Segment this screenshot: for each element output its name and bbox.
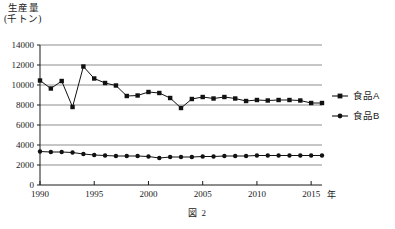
data-point-marker [125, 94, 129, 98]
data-point-marker [59, 150, 63, 154]
data-point-marker [287, 153, 291, 157]
data-point-marker [233, 96, 237, 100]
data-point-marker [244, 99, 248, 103]
data-point-marker [146, 154, 150, 158]
data-point-marker [190, 97, 194, 101]
data-point-marker [81, 152, 85, 156]
legend-label-食品B: 食品B [353, 110, 379, 121]
y-tick-label: 8000 [16, 100, 35, 110]
data-point-marker [276, 153, 280, 157]
data-point-marker [320, 101, 324, 105]
data-point-marker [92, 153, 96, 157]
x-axis-tick-labels: 199019952000200520102015 [31, 189, 321, 199]
x-tick-label: 1990 [31, 189, 50, 199]
data-point-marker [276, 98, 280, 102]
data-point-marker [179, 106, 183, 110]
data-point-marker [287, 98, 291, 102]
data-point-marker [38, 149, 42, 153]
data-point-marker [38, 78, 42, 82]
y-tick-label: 4000 [16, 140, 35, 150]
data-point-marker [70, 105, 74, 109]
data-point-marker [70, 150, 74, 154]
data-point-marker [157, 156, 161, 160]
y-tick-label: 6000 [16, 120, 35, 130]
data-point-marker [103, 81, 107, 85]
data-point-marker [190, 155, 194, 159]
line-chart-plot: 02000400060008000100001200014000 1990199… [0, 0, 395, 206]
data-point-marker [309, 101, 313, 105]
data-point-marker [266, 98, 270, 102]
data-point-marker [135, 93, 139, 97]
figure-container: 生産量 (千トン) 020004000600080001000012000140… [0, 0, 395, 229]
legend-marker-circle [338, 114, 343, 119]
x-tick-label: 2015 [302, 189, 321, 199]
x-tick-label: 2000 [139, 189, 158, 199]
figure-caption: 図 2 [0, 206, 395, 219]
data-point-marker [59, 79, 63, 83]
data-point-marker [168, 96, 172, 100]
data-point-marker [222, 154, 226, 158]
data-point-marker [233, 154, 237, 158]
data-point-marker [168, 155, 172, 159]
data-point-marker [92, 76, 96, 80]
x-tick-label: 2005 [194, 189, 213, 199]
data-point-marker [81, 64, 85, 68]
data-point-marker [266, 153, 270, 157]
data-point-marker [222, 95, 226, 99]
gridlines [37, 45, 322, 185]
data-point-marker [103, 153, 107, 157]
chart-legend: 食品A食品B [332, 90, 380, 121]
x-axis-ticks [40, 181, 311, 185]
y-tick-label: 12000 [12, 60, 35, 70]
data-point-marker [135, 154, 139, 158]
y-tick-label: 2000 [16, 160, 35, 170]
y-tick-label: 14000 [12, 40, 35, 50]
data-point-marker [179, 155, 183, 159]
data-point-marker [114, 83, 118, 87]
data-point-marker [125, 154, 129, 158]
legend-marker-square [338, 94, 343, 99]
data-series [38, 64, 324, 160]
x-axis-unit-label: 年 [327, 189, 336, 200]
data-point-marker [211, 96, 215, 100]
data-point-marker [157, 91, 161, 95]
data-point-marker [211, 154, 215, 158]
data-point-marker [320, 153, 324, 157]
data-point-marker [255, 98, 259, 102]
y-tick-label: 10000 [12, 80, 35, 90]
data-point-marker [298, 153, 302, 157]
data-point-marker [49, 86, 53, 90]
x-tick-label: 1995 [85, 189, 104, 199]
data-point-marker [146, 90, 150, 94]
data-point-marker [255, 153, 259, 157]
data-point-marker [200, 154, 204, 158]
data-point-marker [49, 150, 53, 154]
data-point-marker [244, 154, 248, 158]
data-point-marker [298, 98, 302, 102]
data-point-marker [114, 154, 118, 158]
data-point-marker [309, 153, 313, 157]
data-point-marker [200, 95, 204, 99]
legend-label-食品A: 食品A [353, 90, 380, 101]
x-tick-label: 2010 [248, 189, 267, 199]
y-axis-tick-labels: 02000400060008000100001200014000 [12, 40, 35, 190]
